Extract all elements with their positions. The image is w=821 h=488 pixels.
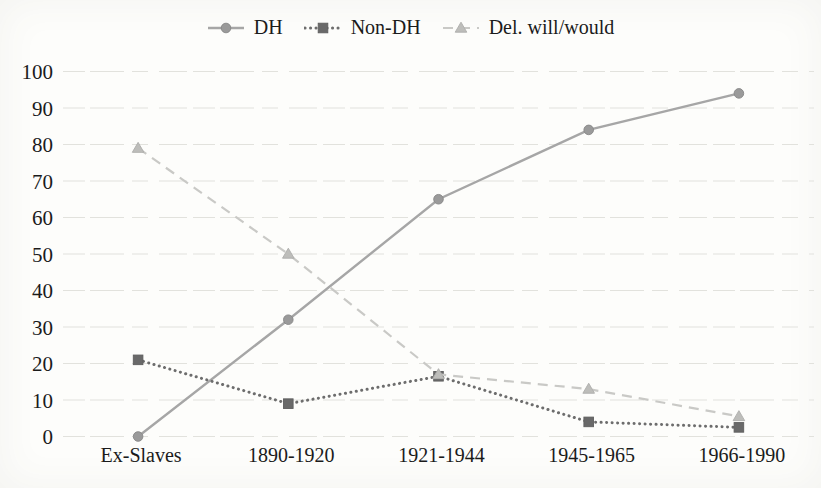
y-axis-tick-label-50: 50 (32, 243, 53, 267)
y-axis-tick-label-40: 40 (32, 279, 53, 303)
data-point-dh-4 (734, 89, 744, 99)
x-axis-label-ex-slaves: Ex-Slaves (101, 444, 182, 466)
data-point-dh-0 (133, 432, 143, 442)
y-axis-tick-label-100: 100 (22, 60, 54, 84)
data-point-del-will-would-1 (283, 248, 295, 258)
data-point-non-dh-3 (584, 417, 594, 427)
x-axis-label-1966-1990: 1966-1990 (699, 444, 786, 466)
data-point-dh-3 (584, 125, 594, 135)
x-axis-label-1921-1944: 1921-1944 (398, 444, 485, 466)
data-point-non-dh-0 (133, 355, 143, 365)
y-axis-tick-label-30: 30 (32, 316, 53, 340)
data-point-non-dh-4 (734, 423, 744, 433)
x-axis-label-1890-1920: 1890-1920 (248, 444, 335, 466)
y-axis-tick-label-80: 80 (32, 133, 53, 157)
series-del-will-would (132, 142, 744, 420)
x-axis-label-1945-1965: 1945-1965 (548, 444, 635, 466)
data-point-dh-2 (434, 194, 444, 204)
series-dh (133, 89, 743, 442)
y-axis-tick-label-60: 60 (32, 206, 53, 230)
line-chart-figure: 0102030405060708090100Ex-Slaves1890-1920… (0, 0, 821, 488)
series-non-dh (133, 355, 743, 432)
y-axis-tick-label-70: 70 (32, 170, 53, 194)
data-point-del-will-would-3 (583, 383, 595, 393)
data-point-dh-1 (284, 315, 294, 325)
data-point-del-will-would-0 (132, 142, 144, 152)
plot-area: 0102030405060708090100Ex-Slaves1890-1920… (0, 0, 821, 488)
y-axis-tick-label-0: 0 (43, 425, 54, 449)
data-point-non-dh-1 (284, 399, 294, 409)
y-axis-tick-label-90: 90 (32, 97, 53, 121)
y-axis-tick-label-20: 20 (32, 352, 53, 376)
y-axis-tick-label-10: 10 (32, 389, 53, 413)
data-point-del-will-would-4 (733, 411, 745, 421)
